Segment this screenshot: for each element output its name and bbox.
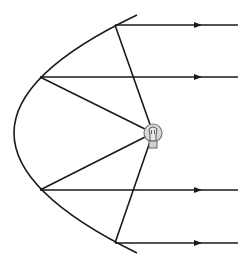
parabolic-reflector-diagram: Parabolic reflector with light source at… (0, 0, 252, 265)
light-rays (40, 25, 238, 243)
light-bulb-icon (144, 124, 162, 148)
diagram-canvas (0, 0, 252, 265)
parabolic-mirror (14, 15, 137, 253)
